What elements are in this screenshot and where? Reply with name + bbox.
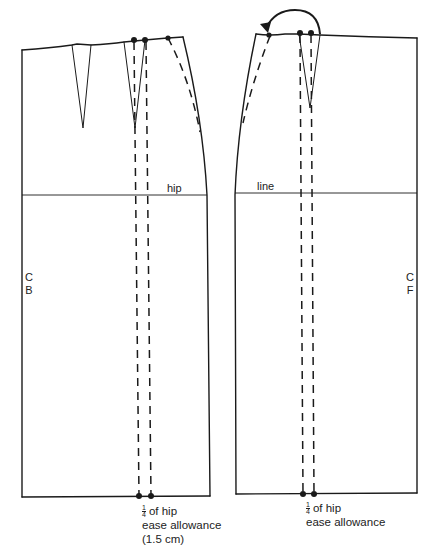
marker-dots	[131, 30, 317, 499]
front-hip-label: line	[257, 180, 274, 192]
pattern-drawing	[0, 0, 439, 559]
back-ease-annotation: 1 4 of hip ease allowance (1.5 cm)	[142, 504, 221, 546]
front-dash-1	[300, 35, 303, 494]
front-hem	[236, 493, 417, 494]
front-side-seam	[235, 34, 256, 494]
back-dash-1	[134, 42, 139, 496]
quarter-fraction: 1 4	[306, 502, 310, 515]
quarter-fraction: 1 4	[142, 505, 146, 518]
front-waistline	[256, 34, 417, 38]
front-center-label: C F	[405, 271, 415, 297]
back-center-label: C B	[24, 271, 34, 297]
back-dart-1	[72, 45, 91, 128]
back-side-seam	[183, 37, 210, 496]
back-waistline	[22, 37, 183, 50]
front-dart	[299, 34, 320, 108]
front-ease-annotation: 1 4 of hip ease allowance	[306, 501, 385, 529]
arrowhead-icon	[260, 22, 271, 33]
front-dash-2	[311, 35, 314, 494]
back-hem	[22, 496, 210, 497]
back-side-dash-curve	[168, 38, 200, 132]
back-hip-label: hip	[167, 182, 182, 194]
back-dash-2	[146, 42, 151, 496]
